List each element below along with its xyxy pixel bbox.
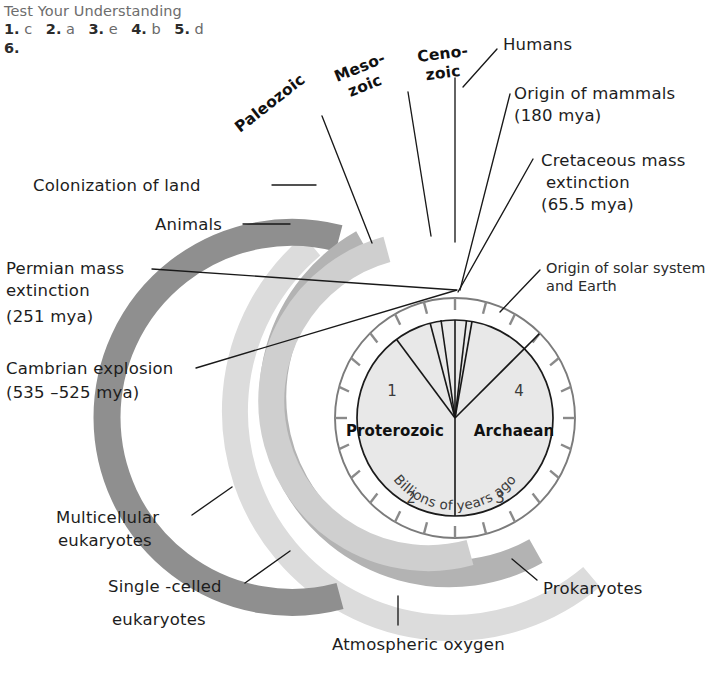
label-single-celled-line2: eukaryotes bbox=[112, 610, 206, 629]
label-single-celled-line1: Single -celled bbox=[108, 577, 222, 596]
era-label-paleozoic: Paleozoic bbox=[231, 70, 308, 136]
earth-history-clock-figure: 1 2 3 4 Proterozoic Archaean Billions of… bbox=[0, 0, 720, 673]
label-cretaceous-mass-extinction: Cretaceous mass extinction (65.5 mya) bbox=[541, 151, 686, 214]
leader-origin-of-mammals bbox=[460, 94, 510, 290]
label-cambrian-explosion: Cambrian explosion (535 –525 mya) bbox=[6, 359, 173, 402]
label-animals: Animals bbox=[155, 215, 222, 234]
label-humans: Humans bbox=[503, 35, 572, 54]
label-multicellular-line1: Multicellular bbox=[56, 508, 159, 527]
label-humans-line1: Humans bbox=[503, 35, 572, 54]
label-permian-line1: Permian mass bbox=[6, 259, 124, 278]
dial-hour-4: 4 bbox=[514, 382, 524, 400]
label-cretaceous-line2: extinction bbox=[546, 173, 630, 192]
label-cretaceous-line3: (65.5 mya) bbox=[541, 195, 634, 214]
dial-label-proterozoic: Proterozoic bbox=[346, 422, 444, 440]
label-prokaryotes: Prokaryotes bbox=[543, 579, 643, 598]
era-cenozoic-line2: zoic bbox=[425, 62, 462, 84]
label-permian-line2: extinction bbox=[6, 281, 90, 300]
dial-hour-1: 1 bbox=[387, 382, 397, 400]
label-single-celled-eukaryotes: Single -celled eukaryotes bbox=[108, 577, 222, 629]
era-label-mesozoic: Meso- zoic bbox=[332, 49, 395, 103]
label-origin-of-mammals-line1: Origin of mammals bbox=[514, 84, 675, 103]
era-label-cenozoic: Ceno- zoic bbox=[416, 42, 471, 85]
label-origin-of-mammals-line2: (180 mya) bbox=[514, 106, 601, 125]
label-cretaceous-line1: Cretaceous mass bbox=[541, 151, 686, 170]
label-solar-system-line1: Origin of solar system bbox=[546, 260, 705, 276]
leader-mesozoic bbox=[408, 92, 431, 236]
label-origin-of-solar-system: Origin of solar system and Earth bbox=[546, 260, 705, 294]
label-permian-line3: (251 mya) bbox=[6, 307, 93, 326]
leader-origin-of-solar-system bbox=[500, 270, 540, 312]
label-atmospheric-oxygen-line1: Atmospheric oxygen bbox=[332, 635, 505, 654]
label-solar-system-line2: and Earth bbox=[546, 278, 617, 294]
label-colonization-of-land: Colonization of land bbox=[33, 176, 201, 195]
label-colonization-line1: Colonization of land bbox=[33, 176, 201, 195]
label-multicellular-line2: eukaryotes bbox=[58, 531, 152, 550]
dial-label-archaean: Archaean bbox=[474, 422, 554, 440]
leader-multicellular-eukaryotes bbox=[192, 487, 232, 515]
label-atmospheric-oxygen: Atmospheric oxygen bbox=[332, 635, 505, 654]
era-paleozoic-text: Paleozoic bbox=[231, 70, 308, 136]
label-cambrian-line1: Cambrian explosion bbox=[6, 359, 173, 378]
label-animals-line1: Animals bbox=[155, 215, 222, 234]
label-prokaryotes-line1: Prokaryotes bbox=[543, 579, 643, 598]
figure-page: Test Your Understanding 1. c 2. a 3. e 4… bbox=[0, 0, 720, 673]
label-permian-mass-extinction: Permian mass extinction (251 mya) bbox=[6, 259, 124, 326]
leader-cretaceous-mass-extinction bbox=[458, 159, 533, 292]
label-cambrian-line2: (535 –525 mya) bbox=[6, 383, 139, 402]
label-origin-of-mammals: Origin of mammals (180 mya) bbox=[514, 84, 675, 125]
era-cenozoic-line1: Ceno- bbox=[416, 42, 469, 66]
